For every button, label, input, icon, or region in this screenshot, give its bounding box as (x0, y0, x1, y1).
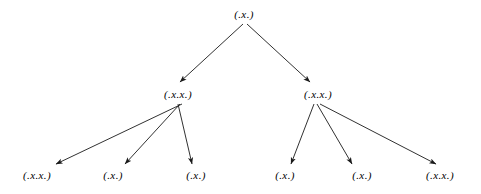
tree-node-leaf4: (.x.) (275, 170, 295, 181)
tree-edge-arrow (317, 104, 352, 164)
tree-edge-arrow (291, 104, 314, 164)
tree-edge-arrow (247, 24, 310, 82)
tree-edge-arrow (125, 104, 180, 164)
tree-node-leaf2: (.x.) (103, 170, 123, 181)
tree-edges-canvas (0, 0, 481, 194)
tree-node-leaf1: (.x.x.) (23, 170, 51, 181)
tree-node-midR: (.x.x.) (304, 89, 332, 100)
tree-edge-arrow (178, 104, 192, 164)
tree-edge-arrow (320, 104, 436, 164)
tree-node-leaf3: (.x.) (186, 170, 206, 181)
tree-node-midL: (.x.x.) (164, 89, 192, 100)
tree-node-leaf5: (.x.) (352, 170, 372, 181)
tree-edge-arrow (56, 104, 182, 164)
tree-node-root: (.x.) (234, 9, 254, 20)
edge-group (56, 24, 436, 164)
tree-edge-arrow (180, 24, 243, 82)
tree-node-leaf6: (.x.x.) (426, 170, 454, 181)
derivation-tree-diagram: (.x.)(.x.x.)(.x.x.)(.x.x.)(.x.)(.x.)(.x.… (0, 0, 481, 194)
